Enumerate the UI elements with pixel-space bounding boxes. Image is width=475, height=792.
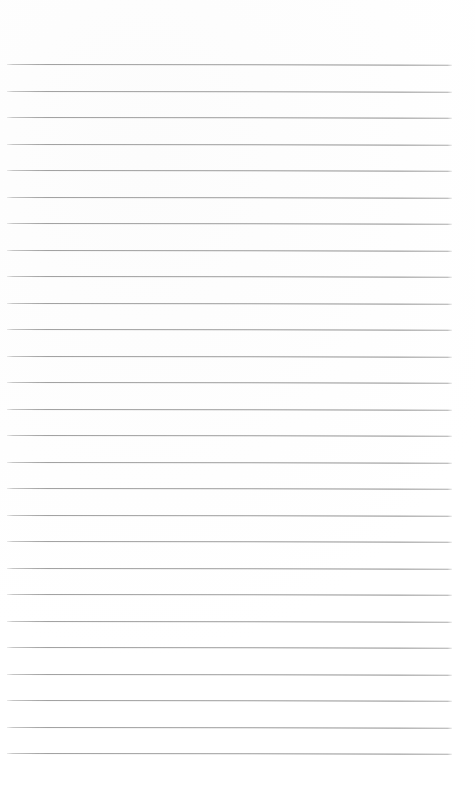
page-footer-margin [0,754,475,792]
rule-line[interactable] [7,250,452,252]
rule-line[interactable] [7,197,452,199]
rule-line[interactable] [7,117,452,119]
rule-line[interactable] [7,594,452,596]
rule-line[interactable] [7,700,452,702]
rule-line[interactable] [7,382,452,384]
rule-line[interactable] [7,515,452,517]
rule-line[interactable] [7,621,452,623]
rule-line[interactable] [7,647,452,649]
rule-line[interactable] [7,223,452,225]
rule-line[interactable] [7,727,452,729]
rule-line[interactable] [7,170,452,172]
rule-line[interactable] [7,91,452,93]
rule-line[interactable] [7,64,452,66]
rule-line[interactable] [7,488,452,490]
rule-line[interactable] [7,276,452,278]
rule-line[interactable] [7,674,452,676]
rule-line[interactable] [7,303,452,305]
rule-line[interactable] [7,435,452,437]
ruled-writing-area[interactable] [0,0,475,792]
rule-line[interactable] [7,541,452,543]
rule-line[interactable] [7,409,452,411]
rule-line[interactable] [7,356,452,358]
rule-line[interactable] [7,462,452,464]
rule-line[interactable] [7,568,452,570]
rule-line[interactable] [7,144,452,146]
rule-line[interactable] [7,329,452,331]
notepad-page [0,0,475,792]
